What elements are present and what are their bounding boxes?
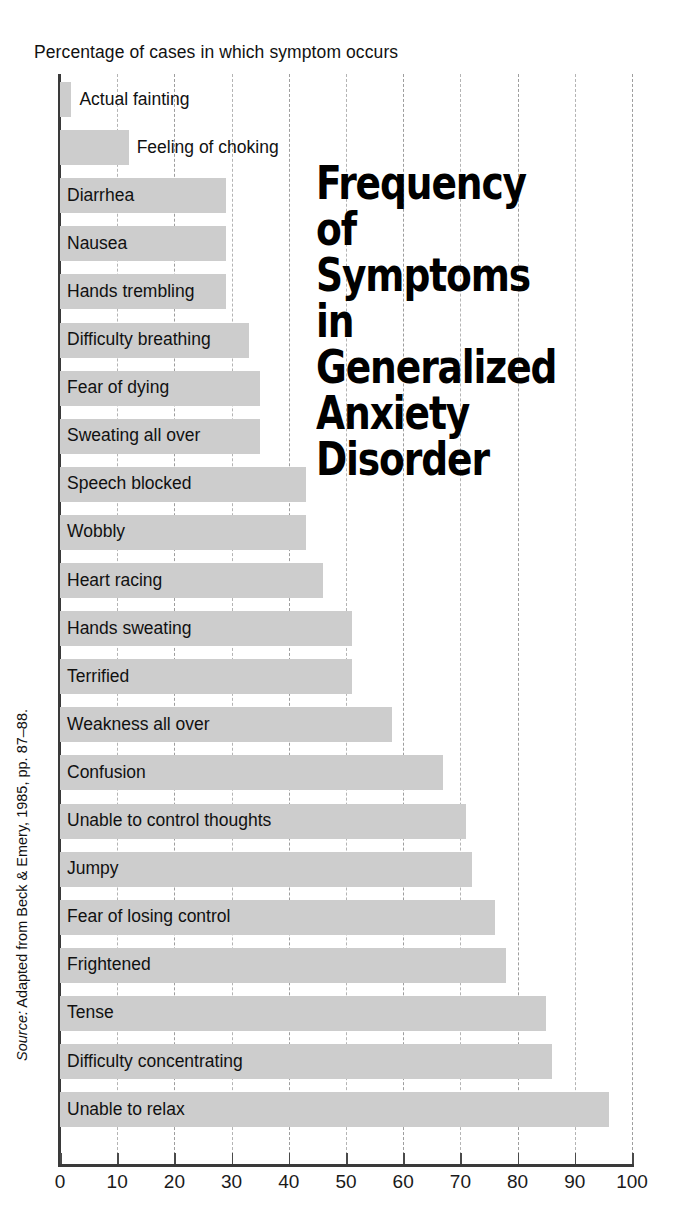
bar-label: Fear of dying <box>67 379 169 397</box>
bar-row[interactable]: Heart racing <box>60 563 632 598</box>
x-tick-50 <box>346 1153 348 1164</box>
bar-label: Heart racing <box>67 572 162 590</box>
x-tick-100 <box>632 1153 634 1164</box>
x-axis-caption: Percentage of cases in which symptom occ… <box>34 42 398 63</box>
bar-label: Difficulty concentrating <box>67 1053 243 1071</box>
bar-row[interactable]: Frightened <box>60 948 632 983</box>
bar-label: Hands sweating <box>67 620 192 638</box>
x-tick-70 <box>460 1153 462 1164</box>
bar-label: Diarrhea <box>67 187 134 205</box>
bar-row[interactable]: Jumpy <box>60 852 632 887</box>
x-tick-label: 50 <box>335 1171 356 1193</box>
bar-row[interactable]: Confusion <box>60 755 632 790</box>
bar-label: Fear of losing control <box>67 908 230 926</box>
source-label: Source: <box>14 1011 30 1061</box>
x-axis: 0102030405060708090100 <box>60 1164 634 1216</box>
bar-label: Actual fainting <box>79 91 189 109</box>
bar-row[interactable]: Wobbly <box>60 515 632 550</box>
source-text: Adapted from Beck & Emery, 1985, pp. 87–… <box>14 709 30 1011</box>
bar-row[interactable]: Unable to relax <box>60 1092 632 1127</box>
bar-label: Hands trembling <box>67 283 194 301</box>
x-tick-label: 40 <box>278 1171 299 1193</box>
chart-title: Frequency of Symptoms in Generalized Anx… <box>316 160 556 482</box>
bar-label: Unable to relax <box>67 1101 185 1119</box>
x-tick-20 <box>174 1153 176 1164</box>
bar[interactable] <box>60 996 546 1031</box>
x-tick-30 <box>232 1153 234 1164</box>
bar-row[interactable]: Fear of losing control <box>60 900 632 935</box>
bar-label: Terrified <box>67 668 129 686</box>
bar-label: Frightened <box>67 957 151 975</box>
x-tick-80 <box>518 1153 520 1164</box>
bar[interactable] <box>60 82 71 117</box>
bar-row[interactable]: Actual fainting <box>60 82 632 117</box>
x-tick-40 <box>289 1153 291 1164</box>
x-axis-line <box>58 1164 634 1167</box>
source-note: Source: Adapted from Beck & Emery, 1985,… <box>14 421 30 1061</box>
bar-label: Sweating all over <box>67 427 200 445</box>
x-tick-label: 10 <box>107 1171 128 1193</box>
bar-row[interactable]: Hands sweating <box>60 611 632 646</box>
bar-label: Jumpy <box>67 860 119 878</box>
x-tick-label: 70 <box>450 1171 471 1193</box>
x-tick-0 <box>60 1153 62 1164</box>
x-tick-label: 20 <box>164 1171 185 1193</box>
x-tick-label: 0 <box>55 1171 66 1193</box>
x-tick-label: 80 <box>507 1171 528 1193</box>
x-tick-label: 60 <box>393 1171 414 1193</box>
bar-row[interactable]: Unable to control thoughts <box>60 804 632 839</box>
bar-label: Feeling of choking <box>137 139 279 157</box>
x-tick-60 <box>403 1153 405 1164</box>
bar-row[interactable]: Weakness all over <box>60 707 632 742</box>
bar-label: Difficulty breathing <box>67 331 211 349</box>
bar-label: Confusion <box>67 764 146 782</box>
x-tick-label: 30 <box>221 1171 242 1193</box>
bar-row[interactable]: Terrified <box>60 659 632 694</box>
bar-label: Wobbly <box>67 524 125 542</box>
bar-label: Nausea <box>67 235 127 253</box>
bar-label: Speech blocked <box>67 476 192 494</box>
bar-label: Unable to control thoughts <box>67 812 271 830</box>
bar[interactable] <box>60 130 129 165</box>
gridline-100 <box>632 74 634 1160</box>
bar-row[interactable]: Tense <box>60 996 632 1031</box>
bar-row[interactable]: Difficulty concentrating <box>60 1044 632 1079</box>
x-tick-10 <box>117 1153 119 1164</box>
bar-label: Tense <box>67 1005 114 1023</box>
bar[interactable] <box>60 852 472 887</box>
x-tick-90 <box>575 1153 577 1164</box>
x-tick-label: 90 <box>564 1171 585 1193</box>
bar-label: Weakness all over <box>67 716 210 734</box>
x-tick-label: 100 <box>616 1171 648 1193</box>
